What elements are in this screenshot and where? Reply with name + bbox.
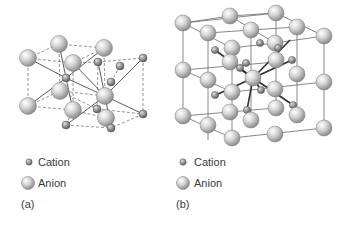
anion-legend-icon	[177, 177, 190, 190]
anion-atom	[267, 126, 283, 142]
anion-atom	[289, 66, 305, 82]
cation-legend-icon	[180, 159, 186, 165]
anion-atom	[224, 84, 240, 100]
cation-atom	[62, 74, 70, 82]
anion-atom	[268, 5, 284, 21]
panel-a-structure	[20, 36, 148, 133]
anion-atom	[289, 19, 305, 35]
anion-legend-label: Anion	[38, 177, 66, 189]
panel-a-legend: Cation Anion (a)	[21, 156, 70, 210]
anion-atom	[175, 15, 191, 31]
cation-atom	[62, 121, 70, 129]
anion-atom	[222, 54, 238, 70]
cation-atom	[257, 86, 264, 93]
panel-b-structure	[175, 5, 332, 146]
cation-atom	[139, 110, 147, 118]
panel-b-label: (b)	[176, 198, 189, 210]
panel-a-bonds	[28, 44, 143, 128]
cation-legend-label: Cation	[194, 156, 226, 168]
cation-atom	[107, 124, 115, 132]
cation-atom	[139, 54, 147, 62]
anion-legend-icon	[22, 177, 35, 190]
panel-b-atoms	[175, 5, 332, 146]
anion-atom	[316, 28, 332, 44]
anion-atom	[316, 120, 332, 136]
anion-atom	[175, 62, 191, 78]
cation-atom	[211, 46, 218, 53]
cation-atom	[107, 78, 115, 86]
anion-atom	[20, 50, 37, 67]
anion-atom	[52, 83, 69, 100]
anion-atom	[175, 108, 191, 124]
anion-atom	[20, 98, 37, 115]
crystal-structure-figure: Cation Anion (a) Cation Anion (b)	[0, 0, 352, 226]
cation-atom	[274, 44, 281, 51]
lattice-edge	[98, 58, 143, 62]
anion-atom	[97, 88, 114, 105]
anion-atom	[243, 112, 259, 128]
cation-legend-label: Cation	[38, 156, 70, 168]
anion-atom	[224, 40, 240, 56]
anion-atom	[96, 40, 113, 57]
anion-atom	[289, 107, 305, 123]
cation-atom	[94, 58, 102, 66]
cation-atom	[116, 62, 124, 70]
anion-atom	[222, 104, 238, 120]
lattice-edge	[111, 114, 143, 128]
anion-atom	[200, 72, 216, 88]
cation-atom	[242, 59, 249, 66]
anion-atom	[222, 8, 238, 24]
anion-atom	[224, 130, 240, 146]
anion-atom	[200, 25, 216, 41]
anion-legend-label: Anion	[194, 177, 222, 189]
anion-atom	[51, 36, 68, 53]
anion-atom	[245, 70, 261, 86]
cation-atom	[256, 39, 263, 46]
cation-atom	[93, 105, 101, 113]
cation-atom	[236, 64, 243, 71]
panel-a-dashed-edges	[28, 44, 143, 128]
anion-atom	[268, 100, 284, 116]
anion-atom	[200, 117, 216, 133]
panel-a-atoms	[20, 36, 148, 133]
cation-atom	[211, 91, 218, 98]
cation-legend-icon	[26, 159, 32, 165]
cation-atom	[288, 56, 295, 63]
anion-atom	[65, 55, 82, 72]
panel-a-label: (a)	[21, 198, 34, 210]
anion-atom	[268, 52, 284, 68]
anion-atom	[243, 22, 259, 38]
panel-b-legend: Cation Anion (b)	[176, 156, 226, 210]
anion-atom	[267, 81, 283, 97]
anion-atom	[65, 102, 82, 119]
anion-atom	[316, 74, 332, 90]
